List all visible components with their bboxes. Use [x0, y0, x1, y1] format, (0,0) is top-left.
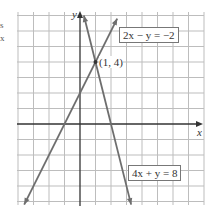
line-label-2x-minus-y: 2x − y = −2 — [119, 27, 179, 43]
line-label-4x-plus-y: 4x + y = 8 — [128, 165, 181, 181]
x-axis-label: x — [197, 126, 202, 138]
line-series-2 — [84, 16, 131, 205]
intersection-point — [94, 60, 98, 64]
y-axis-arrow-icon — [77, 11, 83, 18]
coordinate-plane — [0, 0, 216, 217]
y-axis-label: y — [72, 8, 77, 20]
intersection-label: (1, 4) — [99, 56, 123, 68]
